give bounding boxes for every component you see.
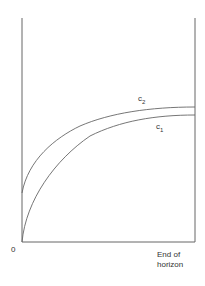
curve-label-c2: c2 bbox=[138, 94, 145, 107]
curve-c2 bbox=[22, 107, 195, 193]
end-label-line2: horizon bbox=[157, 260, 183, 269]
curve-c1 bbox=[22, 115, 195, 242]
chart-canvas bbox=[0, 0, 205, 286]
curve-label-c1: c1 bbox=[156, 122, 163, 135]
end-label-line1: End of bbox=[157, 250, 180, 259]
origin-label: 0 bbox=[11, 245, 15, 254]
